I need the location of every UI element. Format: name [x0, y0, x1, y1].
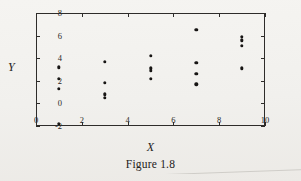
- y-tick-label: -2: [55, 121, 62, 131]
- x-tick-label: 4: [125, 115, 129, 125]
- figure-caption: Figure 1.8: [0, 158, 301, 170]
- x-tick-label: 2: [80, 115, 84, 125]
- y-tick-mark: [261, 13, 265, 14]
- x-tick-mark: [265, 13, 266, 17]
- x-tick-mark: [173, 13, 174, 17]
- y-tick-label: 2: [58, 76, 62, 86]
- x-tick-mark: [128, 13, 129, 17]
- y-tick-mark: [261, 126, 265, 127]
- x-tick-label: 8: [217, 115, 221, 125]
- y-tick-mark: [261, 36, 265, 37]
- y-tick-mark: [36, 103, 40, 104]
- y-tick-mark: [261, 58, 265, 59]
- x-tick-mark: [219, 13, 220, 17]
- y-tick-label: 8: [58, 8, 62, 18]
- x-tick-label: 10: [261, 115, 270, 125]
- y-tick-label: 4: [58, 53, 62, 63]
- figure-container: 0246810 -202468 X Y Figure 1.8: [0, 0, 301, 181]
- y-tick-label: 6: [58, 31, 62, 41]
- y-axis-title: Y: [8, 60, 15, 75]
- y-tick-mark: [36, 58, 40, 59]
- y-tick-mark: [261, 103, 265, 104]
- y-tick-mark: [36, 126, 40, 127]
- y-tick-mark: [36, 13, 40, 14]
- y-tick-mark: [36, 81, 40, 82]
- y-tick-label: 0: [58, 98, 62, 108]
- x-tick-mark: [82, 13, 83, 17]
- x-axis-title: X: [0, 140, 301, 155]
- y-tick-mark: [36, 36, 40, 37]
- y-tick-mark: [261, 81, 265, 82]
- x-tick-label: 0: [34, 115, 38, 125]
- x-tick-label: 6: [171, 115, 175, 125]
- plot-area: [36, 13, 265, 126]
